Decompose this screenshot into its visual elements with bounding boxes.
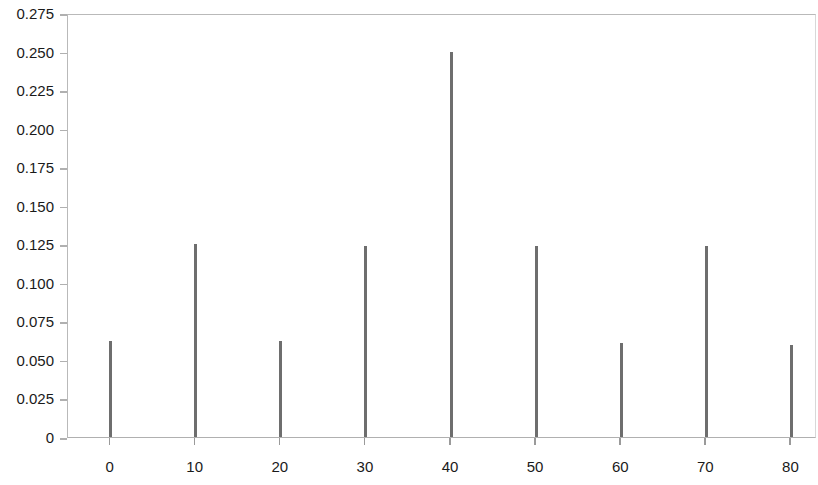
bar xyxy=(790,345,793,438)
bar xyxy=(450,52,453,437)
bar xyxy=(620,343,623,437)
x-axis-tick-mark xyxy=(704,438,706,445)
plot-area xyxy=(67,14,816,438)
y-axis-tick-label: 0.225 xyxy=(16,81,54,101)
x-axis-tick-mark xyxy=(534,438,536,445)
x-axis-tick-mark xyxy=(364,438,366,445)
y-axis-tick-mark xyxy=(60,361,67,363)
y-axis-tick-label: 0.200 xyxy=(16,120,54,140)
x-axis-tick-mark xyxy=(789,438,791,445)
y-axis-tick-mark xyxy=(60,284,67,286)
bar xyxy=(279,341,282,437)
bar xyxy=(194,244,197,437)
y-axis-tick-label: 0.275 xyxy=(16,4,54,24)
y-axis-tick-mark xyxy=(60,14,67,16)
x-axis-tick-label: 60 xyxy=(595,457,645,476)
y-axis-tick-label: 0.050 xyxy=(16,351,54,371)
bar xyxy=(364,246,367,437)
x-axis-tick-label: 50 xyxy=(510,457,560,476)
x-axis-tick-mark xyxy=(194,438,196,445)
y-axis-tick-label: 0.250 xyxy=(16,43,54,63)
y-axis-tick-mark xyxy=(60,245,67,247)
y-axis-tick-label: 0.125 xyxy=(16,235,54,255)
plot-series-container xyxy=(68,15,815,437)
y-axis-tick-mark xyxy=(60,207,67,209)
x-axis-tick-label: 40 xyxy=(425,457,475,476)
y-axis-tick-mark xyxy=(60,130,67,132)
y-axis-tick-mark xyxy=(60,91,67,93)
y-axis-tick-mark xyxy=(60,53,67,55)
y-axis-tick-label: 0.075 xyxy=(16,312,54,332)
x-axis-tick-mark xyxy=(109,438,111,445)
y-axis-tick-mark xyxy=(60,438,67,440)
x-axis-tick-label: 0 xyxy=(85,457,135,476)
y-axis-tick-label: 0.025 xyxy=(16,389,54,409)
x-axis-tick-mark xyxy=(619,438,621,445)
x-axis-tick-label: 30 xyxy=(340,457,390,476)
x-axis-tick-label: 10 xyxy=(170,457,220,476)
y-axis-tick-label: 0 xyxy=(46,428,54,448)
chart-root: 0.2750.2500.2250.2000.1750.1500.1250.100… xyxy=(0,0,818,485)
y-axis-tick-mark xyxy=(60,168,67,170)
bar xyxy=(705,246,708,437)
y-axis-tick-mark xyxy=(60,399,67,401)
x-axis-tick-label: 70 xyxy=(680,457,730,476)
y-axis-tick-mark xyxy=(60,322,67,324)
y-axis-tick-label: 0.100 xyxy=(16,274,54,294)
x-axis-tick-mark xyxy=(279,438,281,445)
y-axis-tick-label: 0.150 xyxy=(16,197,54,217)
x-axis-tick-label: 20 xyxy=(255,457,305,476)
y-axis-tick-label: 0.175 xyxy=(16,158,54,178)
bar xyxy=(535,246,538,437)
bar xyxy=(109,341,112,437)
x-axis-tick-label: 80 xyxy=(765,457,815,476)
x-axis-tick-mark xyxy=(449,438,451,445)
